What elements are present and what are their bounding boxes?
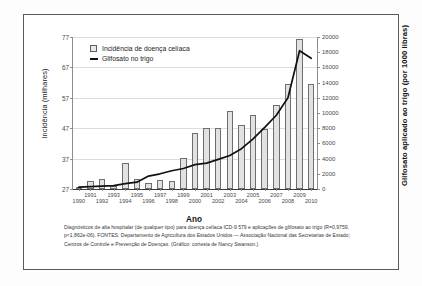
x-tick-mark: [241, 189, 242, 191]
y-tick-label-right: 8000: [322, 125, 335, 131]
page-root: Incidência (milhares) Glifosato aplicado…: [0, 0, 422, 286]
x-tick-mark: [253, 189, 254, 191]
y-tick-label-left: 77: [62, 34, 69, 41]
y-tick-label-left: 47: [62, 125, 69, 132]
x-tick-mark: [183, 189, 184, 191]
y-tick-mark-right: [317, 189, 320, 190]
x-tick-label-1994: 1994: [119, 198, 131, 204]
y-tick-label-right: 4000: [322, 156, 335, 162]
x-tick-label-2001: 2001: [200, 192, 212, 198]
y-tick-label-right: 10000: [322, 110, 339, 116]
y-tick-label-right: 20000: [322, 34, 339, 40]
x-tick-mark: [311, 189, 312, 191]
x-tick-mark: [172, 189, 173, 191]
y-tick-label-left: 37: [62, 155, 69, 162]
legend-label-glifosato: Glifosato no trigo: [102, 55, 153, 62]
x-tick-mark: [230, 189, 231, 191]
x-tick-label-2005: 2005: [247, 192, 259, 198]
x-tick-label-1996: 1996: [142, 198, 154, 204]
x-tick-label-1995: 1995: [131, 192, 143, 198]
x-tick-mark: [218, 189, 219, 191]
y-tick-label-left: 27: [62, 186, 69, 193]
legend-item-glifosato: Glifosato no trigo: [90, 55, 190, 62]
x-tick-mark: [207, 189, 208, 191]
x-tick-mark: [276, 189, 277, 191]
x-tick-mark: [195, 189, 196, 191]
x-tick-label-2006: 2006: [258, 198, 270, 204]
x-tick-label-2002: 2002: [212, 198, 224, 204]
x-tick-label-1997: 1997: [154, 192, 166, 198]
x-tick-label-1999: 1999: [177, 192, 189, 198]
x-tick-mark: [288, 189, 289, 191]
x-tick-label-2008: 2008: [282, 198, 294, 204]
x-tick-mark: [137, 189, 138, 191]
x-tick-label-2003: 2003: [224, 192, 236, 198]
legend-item-incidencia: Incidência de doença celíaca: [90, 45, 190, 52]
x-tick-mark: [125, 189, 126, 191]
x-tick-mark: [90, 189, 91, 191]
chart-figure: Incidência (milhares) Glifosato aplicado…: [24, 15, 400, 271]
x-tick-label-1998: 1998: [166, 198, 178, 204]
figure-frame: Incidência (milhares) Glifosato aplicado…: [23, 14, 399, 270]
x-tick-label-1992: 1992: [96, 198, 108, 204]
bar-swatch-icon: [90, 45, 97, 52]
x-tick-mark: [79, 189, 80, 191]
x-tick-mark: [102, 189, 103, 191]
legend-label-incidencia: Incidência de doença celíaca: [102, 45, 190, 52]
chart-legend: Incidência de doença celíaca Glifosato n…: [90, 45, 190, 65]
x-tick-label-2004: 2004: [235, 198, 247, 204]
x-tick-label-1991: 1991: [84, 192, 96, 198]
y-tick-label-right: 6000: [322, 140, 335, 146]
y-axis-title-right: Glifosato aplicado ao trigo (por 1000 li…: [400, 21, 409, 191]
x-tick-label-2010: 2010: [305, 198, 317, 204]
x-tick-label-2009: 2009: [293, 192, 305, 198]
line-swatch-icon: [90, 58, 98, 60]
y-tick-label-right: 14000: [322, 80, 339, 86]
x-tick-mark: [265, 189, 266, 191]
y-tick-label-left: 67: [62, 64, 69, 71]
x-tick-mark: [300, 189, 301, 191]
x-tick-label-2007: 2007: [270, 192, 282, 198]
y-tick-label-left: 57: [62, 94, 69, 101]
right-axis-line: [317, 37, 318, 189]
x-tick-label-1990: 1990: [73, 198, 85, 204]
figure-caption: Diagnósticos de alta hospitalar (de qual…: [64, 223, 364, 248]
y-tick-label-right: 12000: [322, 95, 339, 101]
x-tick-mark: [114, 189, 115, 191]
y-tick-label-right: 2000: [322, 171, 335, 177]
x-tick-label-1993: 1993: [107, 192, 119, 198]
y-tick-label-right: 18000: [322, 49, 339, 55]
x-tick-mark: [149, 189, 150, 191]
y-tick-label-right: 0: [322, 186, 325, 192]
x-tick-label-2000: 2000: [189, 198, 201, 204]
y-axis-title-left: Incidência (milhares): [40, 39, 49, 169]
y-tick-mark-left: [70, 189, 73, 190]
y-tick-label-right: 16000: [322, 64, 339, 70]
x-tick-mark: [160, 189, 161, 191]
